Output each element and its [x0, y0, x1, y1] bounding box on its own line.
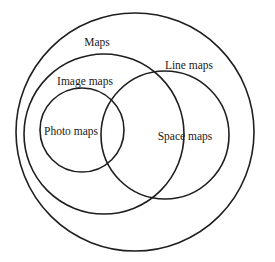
line-maps-label: Line maps — [165, 59, 214, 72]
map-taxonomy-venn-diagram: Maps Image maps Line maps Photo maps Spa… — [0, 0, 275, 262]
image-maps-label: Image maps — [57, 75, 113, 88]
space-maps-label: Space maps — [158, 130, 213, 143]
maps-label: Maps — [84, 36, 110, 49]
photo-maps-label: Photo maps — [44, 125, 99, 138]
